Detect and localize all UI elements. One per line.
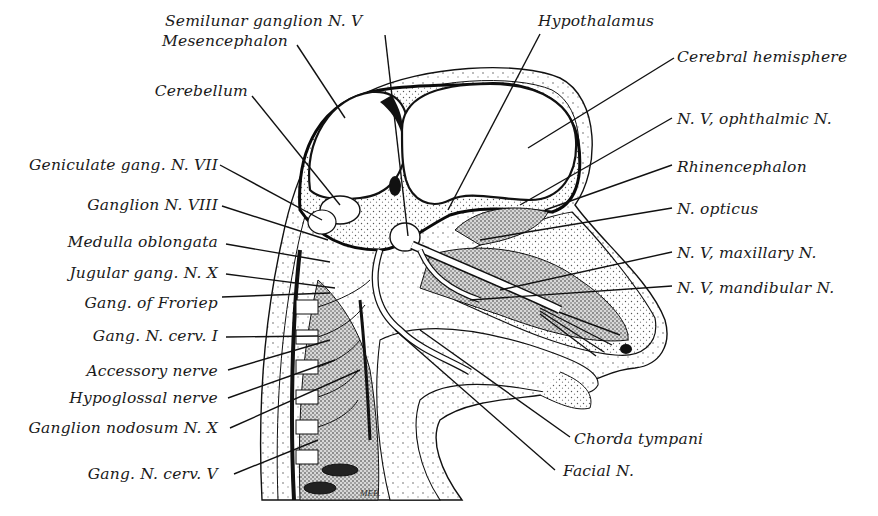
label-gang-cerv-v: Gang. N. cerv. V [88, 465, 218, 483]
label-geniculate-ganglion: Geniculate gang. N. VII [29, 156, 218, 174]
label-ganglion-froriep: Gang. of Froriep [84, 294, 218, 312]
label-gang-cerv-i: Gang. N. cerv. I [93, 327, 218, 345]
label-cerebellum: Cerebellum [155, 82, 248, 100]
label-medulla-oblongata: Medulla oblongata [67, 233, 218, 251]
label-cerebral-hemisphere: Cerebral hemisphere [677, 48, 847, 66]
label-maxillary-nerve: N. V, maxillary N. [677, 244, 817, 262]
label-accessory-nerve: Accessory nerve [86, 362, 218, 380]
label-ganglion-n-viii: Ganglion N. VIII [87, 196, 218, 214]
label-ganglion-nodosum: Ganglion nodosum N. X [29, 419, 218, 437]
label-mesencephalon: Mesencephalon [162, 32, 288, 50]
label-semilunar-ganglion: Semilunar ganglion N. V [165, 12, 362, 30]
label-chorda-tympani: Chorda tympani [574, 430, 703, 448]
label-hypoglossal-nerve: Hypoglossal nerve [69, 389, 218, 407]
anatomical-figure: MEB. [0, 0, 878, 516]
label-jugular-ganglion: Jugular gang. N. X [69, 264, 218, 282]
artist-signature: MEB. [359, 488, 381, 498]
label-n-opticus: N. opticus [677, 200, 758, 218]
label-hypothalamus: Hypothalamus [538, 12, 654, 30]
label-facial-nerve: Facial N. [563, 462, 634, 480]
label-mandibular-nerve: N. V, mandibular N. [677, 279, 834, 297]
label-ophthalmic-nerve: N. V, ophthalmic N. [677, 110, 832, 128]
cerebral-hemisphere [402, 84, 576, 204]
label-rhinencephalon: Rhinencephalon [677, 158, 807, 176]
